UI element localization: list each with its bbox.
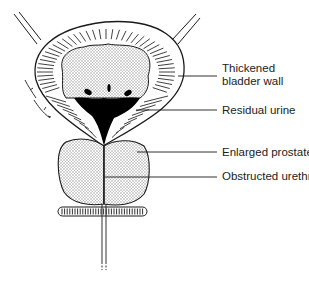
- right-ureter: [172, 14, 200, 44]
- label-residual-urine: Residual urine: [222, 104, 296, 117]
- label-line: Residual urine: [222, 104, 296, 117]
- bladder-cavity: [62, 44, 150, 98]
- urethral-sphincter: [58, 207, 147, 216]
- label-thickened-bladder-wall: Thickened bladder wall: [222, 62, 283, 88]
- enlarged-prostate: [58, 139, 149, 205]
- prostate-left-lobe: [58, 139, 104, 205]
- prostate-right-lobe: [104, 141, 149, 205]
- label-line: bladder wall: [222, 75, 283, 88]
- label-line: Obstructed urethra: [222, 170, 309, 183]
- label-line: Thickened: [222, 62, 283, 75]
- bladder-prostate-diagram: [0, 0, 309, 284]
- label-enlarged-prostate: Enlarged prostate: [222, 146, 309, 159]
- label-line: Enlarged prostate: [222, 146, 309, 159]
- label-obstructed-urethra: Obstructed urethra: [222, 170, 309, 183]
- left-ureter: [14, 12, 41, 44]
